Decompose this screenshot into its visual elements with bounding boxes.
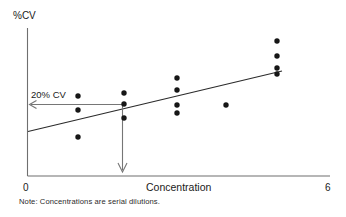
chart-container: %CV Concentration 0 6 20% CV — [0, 0, 346, 217]
data-point — [274, 65, 279, 70]
data-point — [174, 87, 179, 92]
chart-note: Note: Concentrations are serial dilution… — [19, 197, 160, 206]
x-axis-label: Concentration — [146, 181, 212, 193]
scatter-plot-svg: %CV Concentration 0 6 20% CV — [0, 0, 346, 217]
data-point — [223, 102, 228, 107]
data-point — [121, 101, 126, 106]
data-point — [121, 90, 126, 95]
data-point — [174, 75, 179, 80]
y-axis-label: %CV — [13, 10, 36, 21]
x-tick-0: 0 — [23, 182, 29, 193]
data-point — [274, 71, 279, 76]
data-point — [121, 115, 126, 120]
data-point — [274, 38, 279, 43]
data-point — [274, 53, 279, 58]
data-point — [75, 93, 80, 98]
x-tick-6: 6 — [325, 182, 331, 193]
threshold-annotation-label: 20% CV — [31, 89, 67, 100]
data-point — [174, 102, 179, 107]
data-point — [75, 107, 80, 112]
trend-line — [28, 71, 282, 132]
data-point — [75, 134, 80, 139]
data-point — [174, 110, 179, 115]
